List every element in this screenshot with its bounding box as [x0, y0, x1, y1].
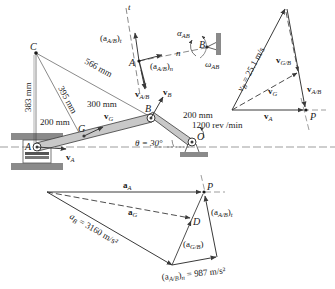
- aAB-t-polygon-arrow: [205, 196, 217, 257]
- label-alpha: αAB: [177, 28, 190, 39]
- dim-CG: 395 mm: [56, 84, 79, 115]
- theta-label: θ = 30°: [135, 138, 163, 148]
- svg-text:B: B: [199, 39, 205, 50]
- label-vG: vG: [104, 111, 114, 122]
- svg-text:vG: vG: [268, 86, 278, 97]
- label-vB: vB: [163, 87, 172, 98]
- crank-speed: 1200 rev /min: [192, 120, 243, 130]
- label-G: G: [78, 123, 85, 134]
- label-omega: ωAB: [205, 59, 219, 70]
- svg-text:n: n: [176, 48, 181, 58]
- svg-text:P: P: [309, 111, 316, 122]
- svg-text:t: t: [128, 2, 131, 12]
- dim-AG: 200 mm: [40, 117, 70, 127]
- label-aAB-n-value: (aA/B)n = 987 m/s²: [161, 265, 226, 283]
- svg-text:P: P: [206, 181, 213, 192]
- svg-text:A: A: [128, 57, 136, 68]
- aAB-t-arrow: [135, 33, 139, 61]
- dim-GB: 300 mm: [87, 99, 117, 109]
- velocity-polygon: vB = 25.1 m/s vG/B vG vA/B vA P: [232, 9, 326, 130]
- acceleration-polygon: aA aG aB = 3160 m/s² (aA/B)t (aG/B) (aA/…: [47, 175, 233, 283]
- label-aB-value: aB = 3160 m/s²: [68, 211, 121, 248]
- label-vA: vA: [66, 152, 75, 163]
- label-A: A: [24, 141, 32, 152]
- slider-guide: [0, 133, 335, 170]
- ground-B: [216, 33, 221, 55]
- dim-CB: 566 mm: [83, 56, 114, 79]
- svg-text:vA/B: vA/B: [307, 84, 321, 95]
- svg-text:aA: aA: [123, 180, 132, 191]
- label-C: C: [30, 41, 37, 52]
- detail-AB: t n A B (aA/B)t (aA/B)n vA/B αAB ωAB: [100, 2, 221, 100]
- svg-text:vA: vA: [264, 111, 273, 122]
- dim-CA: 383 mm: [23, 82, 33, 112]
- dim-OB: 200 mm: [183, 110, 213, 120]
- svg-text:(aG/B): (aG/B): [183, 239, 203, 250]
- svg-text:(aA/B)t: (aA/B)t: [211, 207, 233, 218]
- vAB-polygon-arrow: [287, 9, 305, 107]
- label-aAB-t: (aA/B)t: [100, 33, 122, 44]
- label-B: B: [145, 103, 151, 114]
- svg-text:vG/B: vG/B: [276, 55, 291, 66]
- svg-text:D: D: [192, 216, 201, 227]
- label-vAB: vA/B: [135, 89, 149, 100]
- alpha-arrow: [190, 40, 196, 56]
- label-vB-value: vB = 25.1 m/s: [235, 45, 268, 93]
- label-aAB-n: (aA/B)n: [150, 61, 173, 72]
- kinematics-figure: C A G B O 566 mm 395 mm 383 mm 200 mm 30…: [0, 0, 335, 289]
- label-O: O: [197, 131, 204, 142]
- aAB-n-polygon-arrow: [172, 257, 216, 265]
